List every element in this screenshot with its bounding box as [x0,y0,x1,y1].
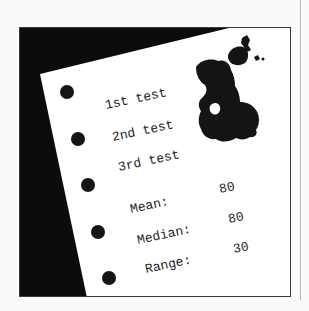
binder-hole-icon [71,132,85,146]
binder-hole-icon [60,85,74,99]
side-divider [300,0,301,300]
binder-hole-icon [81,178,95,192]
stat-value-median: 80 [227,209,245,227]
stat-value-mean: 80 [218,179,236,197]
binder-hole-icon [102,271,116,285]
stat-value-range: 30 [232,239,250,257]
paper-illustration: 1st test 2nd test 3rd test Mean: 80 Medi… [20,28,291,297]
binder-hole-icon [91,225,105,239]
illustration-frame: 1st test 2nd test 3rd test Mean: 80 Medi… [19,27,291,297]
